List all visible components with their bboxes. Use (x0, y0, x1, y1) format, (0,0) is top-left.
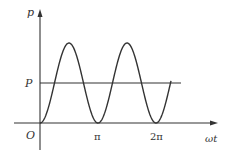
x-tick-2pi: 2π (150, 131, 163, 142)
y-tick-P: P (24, 77, 33, 90)
x-axis-arrow-icon (210, 121, 218, 126)
power-waveform-diagram: p ωt O P π 2π (0, 0, 230, 156)
y-axis-arrow-icon (38, 9, 43, 17)
x-axis-label: ωt (205, 133, 218, 144)
x-tick-pi: π (94, 131, 101, 142)
origin-label: O (26, 129, 35, 142)
y-axis-label: p (27, 6, 34, 19)
